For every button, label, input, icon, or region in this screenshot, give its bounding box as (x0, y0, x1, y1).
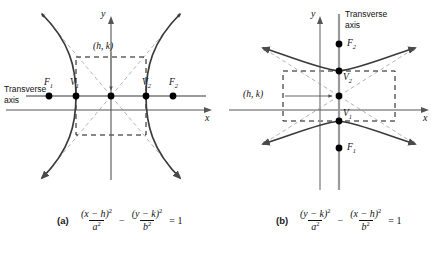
transverse-axis-label-a-line1: Transverse (4, 84, 46, 94)
y-axis-arrow-a (108, 16, 114, 24)
vertex-v1-label-b: V1 (343, 108, 352, 120)
vertex-v1-label-a: V1 (70, 77, 79, 89)
equation-a-operator: − (118, 215, 126, 226)
equation-b: (y − k)2 a2 − (x − h)2 b2 = 1 (297, 208, 402, 233)
focus-f1-label-b: F1 (347, 142, 356, 154)
y-axis-label-b: y (311, 8, 315, 19)
vertex-v2-label-b: V2 (343, 72, 352, 84)
equation-a-term2: (y − k)2 b2 (129, 208, 166, 233)
hyperbola-figure: Transverse axis F1 V1 V2 F2 (h, k) y x (… (0, 0, 446, 253)
transverse-axis-label-a-line2: axis (4, 95, 19, 105)
transverse-axis-label-b-line1: Transverse (345, 9, 387, 19)
vertex-v2-label-a: V2 (142, 77, 151, 89)
vertex-v2-point-b (336, 68, 343, 75)
panel-a-graphic (0, 0, 223, 200)
equation-a-term1: (x − h)2 a2 (78, 208, 115, 233)
x-axis-label-b: x (423, 112, 427, 123)
vertex-v2-point-a (143, 93, 150, 100)
caption-label-a: (a) (57, 215, 69, 226)
equation-b-operator: − (337, 215, 345, 226)
panel-b-graphic (223, 0, 446, 200)
focus-f1-label-a: F1 (44, 77, 53, 89)
focus-f2-point-b (336, 41, 343, 48)
y-axis-arrow-b (317, 16, 323, 24)
focus-f1-point-b (336, 145, 343, 152)
equation-a: (x − h)2 a2 − (y − k)2 b2 = 1 (78, 208, 183, 233)
center-label-b: (h, k) (243, 89, 263, 99)
focus-f2-point-a (170, 93, 177, 100)
panel-a-horizontal-hyperbola: Transverse axis F1 V1 V2 F2 (h, k) y x (… (0, 0, 223, 253)
transverse-axis-label-b-line2: axis (345, 20, 360, 30)
vertex-v1-point-a (73, 93, 80, 100)
equation-b-equals: = 1 (387, 215, 402, 226)
equation-b-term2: (x − h)2 b2 (347, 208, 384, 233)
y-axis-label-a: y (101, 8, 105, 19)
focus-f2-label-a: F2 (169, 77, 178, 89)
focus-f2-label-b: F2 (347, 38, 356, 50)
center-label-a: (h, k) (93, 41, 113, 51)
vertex-v1-point-b (336, 118, 343, 125)
center-point-b (336, 93, 343, 100)
center-point-a (108, 93, 115, 100)
x-axis-label-a: x (205, 112, 209, 123)
panel-b-vertical-hyperbola: Transverse axis F2 V2 V1 F1 (h, k) y x (… (223, 0, 446, 253)
equation-a-equals: = 1 (168, 215, 183, 226)
focus-f1-point-a (46, 93, 53, 100)
equation-b-term1: (y − k)2 a2 (297, 208, 334, 233)
caption-label-b: (b) (276, 215, 288, 226)
